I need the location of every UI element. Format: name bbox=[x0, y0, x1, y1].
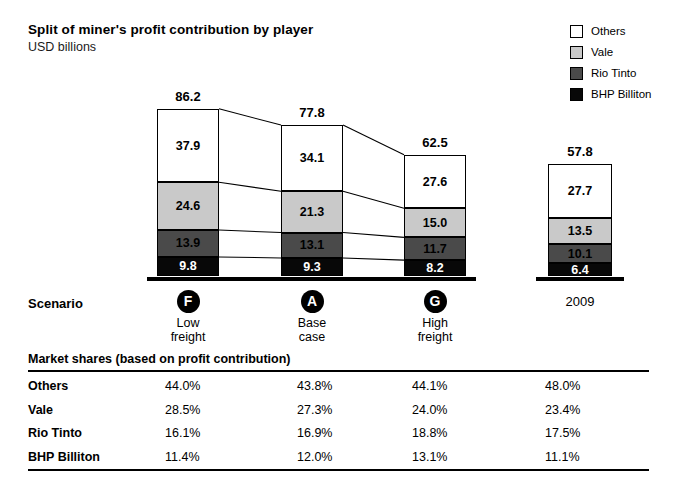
table-cell: 43.8% bbox=[297, 379, 332, 393]
stacked-bar-chart: 37.924.613.99.886.234.121.313.19.377.827… bbox=[0, 60, 677, 285]
table-row: Others44.0%43.8%44.1%48.0% bbox=[28, 379, 649, 403]
chart-baseline bbox=[147, 277, 476, 281]
table-cell: 44.0% bbox=[165, 379, 200, 393]
bar-segment-rio-tinto[interactable]: 10.1 bbox=[548, 244, 612, 264]
scenario-badge-icon: G bbox=[424, 290, 447, 313]
scenario-axis-label: Scenario bbox=[28, 296, 83, 311]
table-cell: 27.3% bbox=[297, 403, 332, 417]
bar-column-low-freight[interactable]: 37.924.613.99.8 bbox=[157, 109, 219, 276]
bar-segment-others[interactable]: 27.7 bbox=[548, 164, 612, 218]
bar-total-label: 77.8 bbox=[281, 105, 343, 120]
bar-segment-others[interactable]: 37.9 bbox=[157, 109, 219, 183]
bar-column-high-freight[interactable]: 27.615.011.78.2 bbox=[404, 155, 466, 276]
table-rule-top bbox=[28, 370, 649, 372]
table-row-label: BHP Billiton bbox=[28, 450, 100, 464]
chart-page: Split of miner's profit contribution by … bbox=[0, 0, 677, 502]
scenario-column-year[interactable]: 2009 bbox=[535, 290, 625, 309]
bar-segment-bhp-billiton[interactable]: 9.3 bbox=[281, 258, 343, 276]
scenario-name-line1: High bbox=[390, 316, 480, 330]
scenario-column-f[interactable]: FLowfreight bbox=[143, 290, 233, 344]
scenario-name-line1: Low bbox=[143, 316, 233, 330]
table-row-label: Others bbox=[28, 379, 68, 393]
vale-swatch bbox=[570, 46, 583, 59]
table-row: Vale28.5%27.3%24.0%23.4% bbox=[28, 403, 649, 427]
scenario-name-line1: Base bbox=[267, 316, 357, 330]
legend-item-vale[interactable]: Vale bbox=[570, 43, 652, 61]
scenario-badge-icon: A bbox=[301, 290, 324, 313]
bar-total-label: 57.8 bbox=[548, 144, 612, 159]
legend-label: Vale bbox=[591, 46, 613, 58]
bar-segment-vale[interactable]: 13.5 bbox=[548, 218, 612, 244]
scenario-name-line2: case bbox=[267, 330, 357, 344]
bar-total-label: 62.5 bbox=[404, 135, 466, 150]
table-cell: 16.9% bbox=[297, 426, 332, 440]
chart-baseline-2009 bbox=[536, 277, 624, 281]
scenario-year-label: 2009 bbox=[535, 295, 625, 309]
table-cell: 12.0% bbox=[297, 450, 332, 464]
market-shares-title: Market shares (based on profit contribut… bbox=[28, 352, 291, 366]
table-cell: 16.1% bbox=[165, 426, 200, 440]
table-cell: 28.5% bbox=[165, 403, 200, 417]
legend-label: Others bbox=[591, 25, 626, 37]
bar-segment-bhp-billiton[interactable]: 8.2 bbox=[404, 260, 466, 276]
scenario-name-line2: freight bbox=[143, 330, 233, 344]
bar-total-label: 86.2 bbox=[157, 89, 219, 104]
bar-segment-bhp-billiton[interactable]: 6.4 bbox=[548, 263, 612, 275]
bar-segment-rio-tinto[interactable]: 13.9 bbox=[157, 230, 219, 257]
table-cell: 11.4% bbox=[165, 450, 200, 464]
bar-segment-vale[interactable]: 24.6 bbox=[157, 182, 219, 230]
table-cell: 23.4% bbox=[545, 403, 580, 417]
table-row-label: Vale bbox=[28, 403, 53, 417]
others-swatch bbox=[570, 25, 583, 38]
table-row-label: Rio Tinto bbox=[28, 426, 82, 440]
scenario-name-line2: freight bbox=[390, 330, 480, 344]
bar-column-2009[interactable]: 27.713.510.16.4 bbox=[548, 164, 612, 276]
bar-segment-rio-tinto[interactable]: 13.1 bbox=[281, 233, 343, 258]
legend-item-others[interactable]: Others bbox=[570, 22, 652, 40]
table-cell: 18.8% bbox=[412, 426, 447, 440]
bar-segment-bhp-billiton[interactable]: 9.8 bbox=[157, 257, 219, 276]
page-title: Split of miner's profit contribution by … bbox=[28, 22, 313, 37]
scenario-badge-icon: F bbox=[177, 290, 200, 313]
table-cell: 13.1% bbox=[412, 450, 447, 464]
scenario-column-a[interactable]: ABasecase bbox=[267, 290, 357, 344]
bar-segment-others[interactable]: 27.6 bbox=[404, 155, 466, 209]
scenario-column-g[interactable]: GHighfreight bbox=[390, 290, 480, 344]
table-cell: 11.1% bbox=[545, 450, 580, 464]
bar-column-base-case[interactable]: 34.121.313.19.3 bbox=[281, 125, 343, 276]
table-row: BHP Billiton11.4%12.0%13.1%11.1% bbox=[28, 450, 649, 474]
bar-segment-rio-tinto[interactable]: 11.7 bbox=[404, 237, 466, 260]
table-cell: 44.1% bbox=[412, 379, 447, 393]
table-cell: 17.5% bbox=[545, 426, 580, 440]
table-cell: 24.0% bbox=[412, 403, 447, 417]
page-subtitle: USD billions bbox=[28, 40, 96, 54]
bar-segment-vale[interactable]: 15.0 bbox=[404, 208, 466, 237]
table-row: Rio Tinto16.1%16.9%18.8%17.5% bbox=[28, 426, 649, 450]
table-cell: 48.0% bbox=[545, 379, 580, 393]
bar-segment-others[interactable]: 34.1 bbox=[281, 125, 343, 191]
bar-segment-vale[interactable]: 21.3 bbox=[281, 191, 343, 232]
